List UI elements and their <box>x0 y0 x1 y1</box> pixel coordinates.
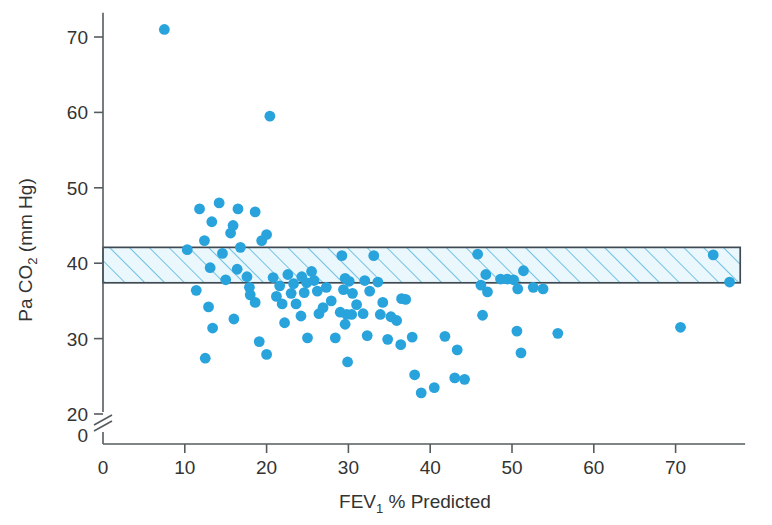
data-point <box>358 308 369 319</box>
data-point <box>724 277 735 288</box>
data-point <box>708 250 719 261</box>
data-point <box>159 24 170 35</box>
data-point <box>346 309 357 320</box>
data-point <box>336 250 347 261</box>
x-axis-title-text: FEV1 % Predicted <box>339 491 491 516</box>
data-point <box>395 339 406 350</box>
data-point <box>318 302 329 313</box>
data-point <box>512 283 523 294</box>
data-point <box>440 331 451 342</box>
data-point <box>516 348 527 359</box>
data-point <box>342 357 353 368</box>
data-point <box>242 271 253 282</box>
data-point <box>225 228 236 239</box>
data-point <box>364 286 375 297</box>
axes <box>94 13 745 453</box>
y-tick-label: 30 <box>67 329 88 350</box>
data-point <box>375 309 386 320</box>
data-points <box>159 24 735 398</box>
y-tick-label: 20 <box>67 404 88 425</box>
x-tick-label: 50 <box>501 457 522 478</box>
data-point <box>256 235 267 246</box>
data-point <box>203 302 214 313</box>
y-tick-label: 70 <box>67 27 88 48</box>
data-point <box>452 345 463 356</box>
data-point <box>482 286 493 297</box>
data-point <box>351 299 362 310</box>
data-point <box>264 111 275 122</box>
data-point <box>382 334 393 345</box>
data-point <box>235 242 246 253</box>
plot-canvas: 2030405060700010203040506070 Pa CO2 (mm … <box>0 0 772 525</box>
data-point <box>340 319 351 330</box>
data-point <box>321 282 332 293</box>
data-point <box>291 299 302 310</box>
data-point <box>254 336 265 347</box>
data-point <box>191 285 202 296</box>
data-point <box>277 299 288 310</box>
data-point <box>372 277 383 288</box>
data-point <box>232 264 243 275</box>
y-tick-label: 40 <box>67 253 88 274</box>
data-point <box>429 382 440 393</box>
data-point <box>480 269 491 280</box>
data-point <box>206 216 217 227</box>
data-point <box>228 314 239 325</box>
data-point <box>407 332 418 343</box>
data-point <box>274 280 285 291</box>
data-point <box>200 353 211 364</box>
data-point <box>217 248 228 259</box>
data-point <box>362 330 373 341</box>
data-point <box>306 266 317 277</box>
data-point <box>261 349 272 360</box>
data-point <box>302 332 313 343</box>
data-point <box>449 372 460 383</box>
data-point <box>538 283 549 294</box>
data-point <box>552 328 563 339</box>
y-axis-title-text: Pa CO2 (mm Hg) <box>15 178 40 321</box>
scatter-plot-figure: 2030405060700010203040506070 Pa CO2 (mm … <box>0 0 772 525</box>
data-point <box>279 317 290 328</box>
data-point <box>214 197 225 208</box>
data-point <box>296 311 307 322</box>
data-point <box>528 282 539 293</box>
data-point <box>391 315 402 326</box>
data-point <box>299 287 310 298</box>
x-tick-label: 70 <box>665 457 686 478</box>
y-axis-break-zero-label: 0 <box>77 425 88 446</box>
data-point <box>472 249 483 260</box>
data-point <box>347 288 358 299</box>
x-tick-label: 60 <box>583 457 604 478</box>
data-point <box>194 204 205 215</box>
data-point <box>459 374 470 385</box>
data-point <box>205 262 216 273</box>
data-point <box>477 310 488 321</box>
x-tick-label: 40 <box>420 457 441 478</box>
data-point <box>250 207 261 218</box>
data-point <box>282 269 293 280</box>
y-tick-label: 60 <box>67 102 88 123</box>
data-point <box>409 369 420 380</box>
data-point <box>286 288 297 299</box>
data-point <box>518 265 529 276</box>
y-axis-title: Pa CO2 (mm Hg) <box>15 178 40 321</box>
x-tick-label: 0 <box>98 457 109 478</box>
data-point <box>675 322 686 333</box>
data-point <box>250 297 261 308</box>
x-tick-label: 20 <box>256 457 277 478</box>
data-point <box>182 244 193 255</box>
data-point <box>359 275 370 286</box>
data-point <box>330 332 341 343</box>
data-point <box>199 235 210 246</box>
data-point <box>368 250 379 261</box>
data-point <box>233 204 244 215</box>
x-axis-title: FEV1 % Predicted <box>339 491 491 516</box>
data-point <box>207 323 218 334</box>
data-point <box>377 297 388 308</box>
x-tick-label: 30 <box>338 457 359 478</box>
data-point <box>344 276 355 287</box>
data-point <box>400 294 411 305</box>
data-point <box>220 274 231 285</box>
data-point <box>512 326 523 337</box>
data-point <box>416 387 427 398</box>
